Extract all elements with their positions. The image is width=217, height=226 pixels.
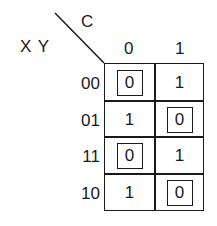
row-label-10: 10 <box>64 184 100 204</box>
karnaugh-map-grid: 0 1 1 0 0 1 1 0 <box>104 63 204 211</box>
boxed-value: 0 <box>117 70 143 96</box>
cell-value: 1 <box>175 146 184 166</box>
boxed-value: 0 <box>167 107 193 133</box>
cell-01-0: 1 <box>105 101 154 138</box>
boxed-value: 0 <box>167 180 193 206</box>
column-variable-label: C <box>81 13 93 30</box>
cell-10-0: 1 <box>105 174 154 211</box>
cell-value: 1 <box>125 183 134 203</box>
column-header-1: 1 <box>175 40 184 57</box>
cell-11-1: 1 <box>155 137 204 174</box>
cell-00-0: 0 <box>105 64 154 101</box>
cell-value: 1 <box>175 73 184 93</box>
cell-10-1: 0 <box>155 174 204 211</box>
row-label-01: 01 <box>64 111 100 131</box>
row-label-11: 11 <box>64 147 100 167</box>
cell-01-1: 0 <box>155 101 204 138</box>
cell-11-0: 0 <box>105 137 154 174</box>
row-variables-label: X Y <box>20 38 49 55</box>
row-label-00: 00 <box>64 74 100 94</box>
column-header-0: 0 <box>124 40 133 57</box>
cell-value: 1 <box>125 110 134 130</box>
boxed-value: 0 <box>117 143 143 169</box>
cell-00-1: 1 <box>155 64 204 101</box>
